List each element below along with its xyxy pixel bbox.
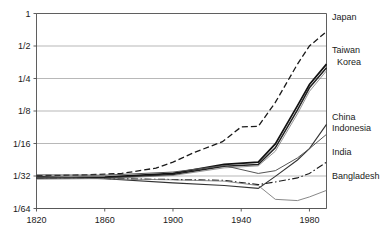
series-label-japan: Japan — [332, 12, 357, 22]
gridlines — [37, 46, 327, 209]
data-series — [37, 32, 327, 201]
series-line-taiwan — [37, 64, 327, 178]
series-line-korea-thin — [37, 71, 327, 179]
series-label-indonesia: Indonesia — [332, 123, 371, 133]
x-tick-label-0: 1820 — [26, 215, 46, 225]
series-label-taiwan: Taiwan — [332, 45, 360, 55]
x-tick-label-3: 1940 — [231, 215, 251, 225]
x-tick-label-2: 1900 — [163, 215, 183, 225]
chart-axes — [34, 14, 327, 212]
series-label-bangladesh: Bangladesh — [332, 171, 380, 181]
series-label-india: India — [332, 147, 352, 157]
line-chart: 11/21/41/81/161/321/64 18201860190019401… — [0, 0, 388, 247]
series-labels: JapanTaiwanKoreaChinaIndonesiaIndiaBangl… — [332, 12, 380, 181]
x-tick-label-4: 1980 — [299, 215, 319, 225]
x-tick-label-1: 1860 — [95, 215, 115, 225]
x-axis-tick-labels: 18201860190019401980 — [26, 215, 319, 225]
y-axis-tick-labels: 11/21/41/81/161/321/64 — [13, 9, 31, 214]
y-tick-label-1: 1/2 — [18, 41, 31, 51]
series-label-korea: Korea — [337, 57, 361, 67]
y-tick-label-2: 1/4 — [18, 74, 31, 84]
series-line-japan — [37, 32, 327, 176]
series-line-korea — [37, 68, 327, 179]
y-tick-label-5: 1/32 — [13, 171, 31, 181]
y-tick-label-4: 1/16 — [13, 139, 31, 149]
series-line-bangladesh — [37, 178, 327, 201]
y-tick-label-3: 1/8 — [18, 106, 31, 116]
series-line-indonesia — [37, 134, 327, 175]
y-tick-label-0: 1 — [25, 9, 30, 19]
y-tick-label-6: 1/64 — [13, 204, 31, 214]
chart-container: 11/21/41/81/161/321/64 18201860190019401… — [0, 0, 388, 247]
series-label-china: China — [332, 112, 356, 122]
